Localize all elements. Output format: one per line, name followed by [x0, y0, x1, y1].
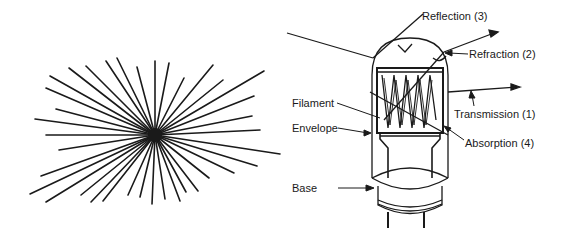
- label-base: Base: [292, 182, 317, 194]
- label-envelope: Envelope: [292, 122, 338, 134]
- label-transmission: Transmission (1): [454, 108, 536, 120]
- label-refraction: Refraction (2): [469, 48, 536, 60]
- label-leaders: [337, 50, 475, 191]
- label-absorption: Absorption (4): [465, 137, 534, 149]
- label-reflection: Reflection (3): [422, 10, 487, 22]
- lamp-figure: [287, 14, 520, 228]
- label-filament: Filament: [292, 97, 334, 109]
- starburst-figure: [30, 58, 280, 204]
